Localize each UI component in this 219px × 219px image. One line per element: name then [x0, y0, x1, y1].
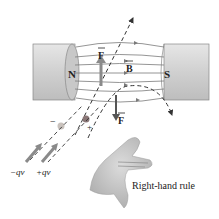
negative-velocity-label: −qv — [10, 167, 25, 177]
field-lines — [75, 43, 164, 103]
negative-sign: − — [50, 116, 56, 127]
magnetic-force-diagram: N S F B F − + −qv +qv Right-hand rule — [0, 0, 219, 219]
force-up-label: F — [98, 50, 104, 61]
north-label: N — [68, 68, 76, 80]
positive-sign: + — [87, 122, 92, 132]
right-hand-icon — [90, 137, 152, 208]
force-down-label: F — [118, 115, 124, 126]
negative-velocity-arrow — [26, 143, 42, 162]
south-label: S — [164, 68, 170, 80]
negative-incoming-path — [30, 106, 82, 160]
right-hand-rule-caption: Right-hand rule — [132, 180, 196, 191]
field-label: B — [126, 63, 133, 74]
positive-velocity-label: +qv — [36, 167, 51, 177]
negative-charge-path — [88, 86, 172, 138]
positive-velocity-arrow — [42, 143, 58, 162]
